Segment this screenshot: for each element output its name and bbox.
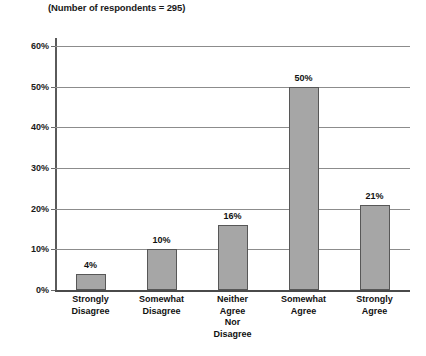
category-label-line: Disagree xyxy=(197,329,269,341)
y-axis-tick-label: 0% xyxy=(5,285,49,295)
bar-value-label: 4% xyxy=(61,260,121,270)
x-axis-category-label: SomewhatAgree xyxy=(268,294,340,317)
bar-value-label: 16% xyxy=(203,211,263,221)
plot-area: 4%10%16%50%21% xyxy=(55,46,410,290)
bar-value-label: 50% xyxy=(274,73,334,83)
category-label-line: Somewhat xyxy=(268,294,340,306)
category-label-line: Neither xyxy=(197,294,269,306)
y-axis-tick-label: 20% xyxy=(5,204,49,214)
gridline xyxy=(55,209,410,210)
y-axis-tick-label: 10% xyxy=(5,244,49,254)
x-axis-category-label: SomewhatDisagree xyxy=(126,294,198,317)
bar xyxy=(76,274,106,290)
bar xyxy=(360,205,390,290)
chart-subtitle: (Number of respondents = 295) xyxy=(48,2,185,13)
bar-chart: (Number of respondents = 295) 0%10%20%30… xyxy=(0,0,426,356)
bar xyxy=(147,249,177,290)
bar xyxy=(218,225,248,290)
gridline xyxy=(55,127,410,128)
axis-baseline xyxy=(55,290,410,292)
y-axis-tick-label: 30% xyxy=(5,163,49,173)
category-label-line: Somewhat xyxy=(126,294,198,306)
x-axis-category-label: StronglyAgree xyxy=(339,294,411,317)
category-label-line: Strongly xyxy=(55,294,127,306)
x-axis-category-label: NeitherAgreeNorDisagree xyxy=(197,294,269,340)
category-label-line: Strongly xyxy=(339,294,411,306)
category-label-line: Agree xyxy=(339,306,411,318)
category-label-line: Agree xyxy=(197,306,269,318)
x-axis-category-label: StronglyDisagree xyxy=(55,294,127,317)
category-label-line: Nor xyxy=(197,317,269,329)
gridline xyxy=(55,46,410,47)
bar-value-label: 21% xyxy=(345,191,405,201)
category-label-line: Agree xyxy=(268,306,340,318)
gridline xyxy=(55,168,410,169)
gridline xyxy=(55,87,410,88)
y-axis-tick-labels: 0%10%20%30%40%50%60% xyxy=(0,0,49,356)
y-axis-tick-label: 60% xyxy=(5,41,49,51)
bar xyxy=(289,87,319,290)
category-label-line: Disagree xyxy=(55,306,127,318)
y-axis-tick-label: 50% xyxy=(5,82,49,92)
category-label-line: Disagree xyxy=(126,306,198,318)
y-axis-tick-label: 40% xyxy=(5,122,49,132)
bar-value-label: 10% xyxy=(132,235,192,245)
